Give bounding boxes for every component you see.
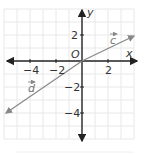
y-tick-label: −4 [64, 107, 80, 120]
svg-text:c: c [110, 34, 116, 47]
y-axis-label: y [86, 6, 94, 19]
x-axis-label: x [125, 47, 133, 60]
vector-c-label: c [110, 34, 117, 47]
vector-d-label: d [28, 82, 36, 95]
x-tick-label: −2 [49, 64, 65, 77]
svg-text:d: d [28, 82, 36, 95]
y-tick-label: −2 [64, 81, 80, 94]
coordinate-plane: y x O −4 −2 2 2 −2 −4 c d [0, 0, 144, 155]
x-tick-label: −4 [23, 64, 39, 77]
origin-label: O [71, 48, 80, 61]
x-tick-label: 2 [105, 64, 112, 77]
y-tick-label: 2 [71, 29, 78, 42]
